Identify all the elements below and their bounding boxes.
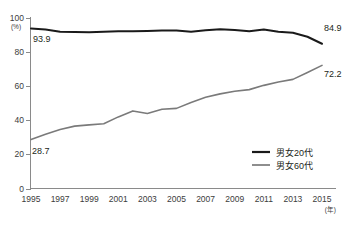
y-axis-tick-label: 40 bbox=[15, 115, 25, 125]
data-label-group: 93.984.928.772.2 bbox=[32, 23, 342, 156]
chart-plot-area: 020406080100 199519971999200120032005200… bbox=[0, 0, 347, 226]
y-axis-unit-label: (%) bbox=[11, 23, 21, 31]
x-axis-tick-label: 2005 bbox=[167, 194, 186, 204]
legend-label-2: 男女60代 bbox=[276, 160, 313, 171]
y-axis-tick-label: 0 bbox=[19, 184, 24, 194]
x-axis-unit-label: (年) bbox=[325, 205, 336, 214]
x-axis-tick-label: 1999 bbox=[80, 194, 99, 204]
x-axis-tick-label: 2007 bbox=[196, 194, 215, 204]
x-axis-tick-label: 1997 bbox=[51, 194, 70, 204]
y-axis-tick-label: 60 bbox=[15, 81, 25, 91]
data-series-group bbox=[31, 28, 322, 139]
value-label-60s-start: 28.7 bbox=[32, 146, 50, 156]
x-axis-tick-label: 2013 bbox=[283, 194, 302, 204]
line-chart: 020406080100 199519971999200120032005200… bbox=[0, 0, 347, 226]
value-label-20s-start: 93.9 bbox=[33, 34, 51, 44]
chart-legend: 男女20代男女60代 bbox=[252, 147, 313, 171]
x-axis-tick-label: 2001 bbox=[109, 194, 128, 204]
x-axis-tick-group: 1995199719992001200320052007200920112013… bbox=[22, 194, 332, 204]
value-label-60s-end: 72.2 bbox=[324, 69, 342, 79]
series-line-2 bbox=[31, 65, 322, 139]
y-axis-tick-label: 100 bbox=[10, 13, 24, 23]
y-axis-tick-label: 20 bbox=[15, 149, 25, 159]
y-axis-tick-group: 020406080100 bbox=[10, 13, 31, 194]
y-axis-tick-label: 80 bbox=[15, 47, 25, 57]
x-axis-tick-label: 2015 bbox=[313, 194, 332, 204]
series-line-1 bbox=[31, 28, 322, 43]
legend-label-1: 男女20代 bbox=[276, 147, 313, 158]
x-axis-tick-label: 2003 bbox=[138, 194, 157, 204]
x-axis-tick-label: 1995 bbox=[22, 194, 41, 204]
x-axis-tick-label: 2011 bbox=[255, 194, 274, 204]
value-label-20s-end: 84.9 bbox=[324, 23, 342, 33]
x-axis-tick-label: 2009 bbox=[225, 194, 244, 204]
